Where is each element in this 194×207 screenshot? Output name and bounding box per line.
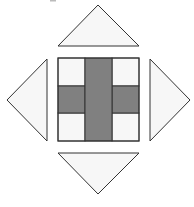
patch-top-left (58, 58, 85, 86)
patch-bottom-right (112, 113, 139, 141)
faint-mark (50, 0, 56, 2)
patch-bottom-left (58, 113, 85, 141)
quilt-diagram (0, 0, 194, 207)
patch-top-right (112, 58, 139, 86)
cross-vertical-bar (85, 58, 112, 141)
top-triangle (58, 5, 139, 46)
nine-patch-square (58, 58, 139, 141)
cross-left-arm (58, 86, 85, 113)
bottom-triangle (58, 153, 139, 194)
left-triangle (7, 59, 47, 141)
right-triangle (150, 59, 190, 141)
cross-right-arm (112, 86, 139, 113)
